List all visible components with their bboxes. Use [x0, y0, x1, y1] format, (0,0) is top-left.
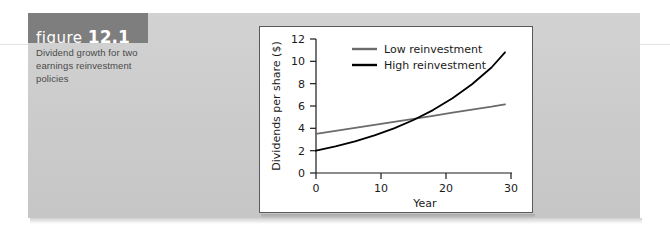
y-tick-label: 2: [298, 145, 305, 158]
y-axis-ticks: [310, 39, 316, 173]
chart-legend: Low reinvestment High reinvestment: [352, 43, 487, 72]
y-axis-title: Dividends per share ($): [270, 41, 283, 170]
x-tick-label: 10: [374, 182, 388, 195]
figure-header-number: 12.1: [88, 27, 130, 43]
x-axis-tick-labels: 0 10 20 30: [313, 182, 519, 195]
y-tick-label: 4: [298, 122, 305, 135]
figure-band-shadow: [30, 218, 642, 224]
chart-panel-shadow: [261, 214, 535, 218]
x-axis-title: Year: [412, 197, 437, 210]
line-chart: 12 10 8 6 4 2 0 0 10 20 30: [260, 27, 534, 214]
legend-label-high-reinvestment: High reinvestment: [384, 59, 487, 72]
chart-panel: 12 10 8 6 4 2 0 0 10 20 30: [259, 26, 533, 213]
x-tick-label: 0: [313, 182, 320, 195]
y-tick-label: 12: [291, 33, 305, 46]
legend-label-low-reinvestment: Low reinvestment: [384, 43, 483, 56]
series-line-low-reinvestment: [316, 104, 505, 134]
x-tick-label: 20: [439, 182, 453, 195]
y-tick-label: 6: [298, 100, 305, 113]
y-tick-label: 0: [298, 167, 305, 180]
x-axis-ticks: [316, 173, 511, 179]
y-tick-label: 8: [298, 78, 305, 91]
x-tick-label: 30: [504, 182, 518, 195]
figure-header-word: figure: [36, 29, 83, 43]
figure-12-1: figure 12.1 Dividend growth for two earn…: [0, 0, 670, 241]
figure-header-text: figure 12.1: [36, 27, 130, 43]
figure-header-block: figure 12.1: [28, 13, 148, 43]
figure-caption: Dividend growth for two earnings reinves…: [36, 46, 154, 85]
y-tick-label: 10: [291, 55, 305, 68]
y-axis-tick-labels: 12 10 8 6 4 2 0: [291, 33, 305, 180]
